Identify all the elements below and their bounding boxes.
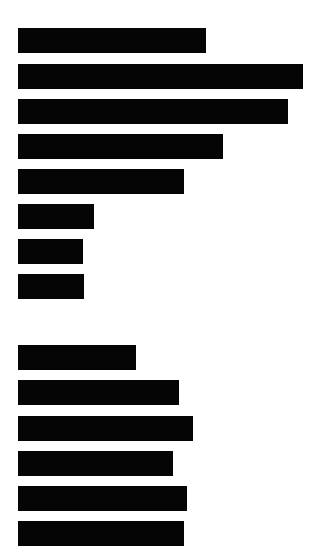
redacted-text-line — [18, 416, 193, 441]
redacted-text-line — [18, 28, 206, 53]
redacted-text-line — [18, 345, 136, 370]
redacted-text-line — [18, 521, 184, 546]
redacted-text-line — [18, 99, 288, 124]
redacted-text-line — [18, 134, 223, 159]
redacted-text-line — [18, 169, 184, 194]
redacted-text-line — [18, 451, 173, 476]
redacted-text-line — [18, 380, 179, 405]
redacted-text-line — [18, 239, 83, 264]
redacted-text-line — [18, 486, 187, 511]
redacted-text-line — [18, 64, 303, 89]
redacted-text-line — [18, 204, 94, 229]
redacted-document-page — [0, 0, 321, 550]
redacted-text-line — [18, 274, 84, 299]
